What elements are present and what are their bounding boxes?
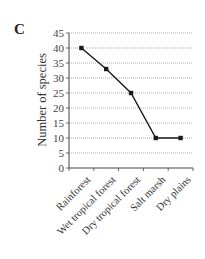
- data-point-marker: [104, 67, 108, 71]
- data-point-marker: [79, 46, 83, 50]
- line-chart: C Number of species 051015202530354045 R…: [0, 0, 205, 259]
- data-point-marker: [129, 91, 133, 95]
- data-point-marker: [178, 136, 182, 140]
- data-point-marker: [154, 136, 158, 140]
